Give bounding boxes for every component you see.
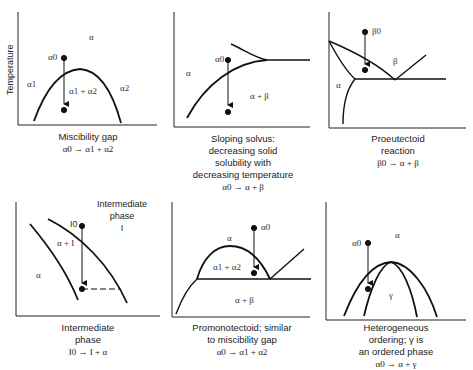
panel-6-reaction: α0 → α + γ bbox=[326, 358, 466, 370]
panel-3-label-alpha: α bbox=[336, 80, 341, 90]
panel-4-phase-title-line-1: Intermediate bbox=[97, 199, 147, 209]
panel-5-left-curve bbox=[176, 279, 197, 314]
panel-4-phase-title-line-3: I bbox=[121, 223, 124, 233]
panel-5-label-inside: α1 + α2 bbox=[213, 262, 241, 272]
panel-5-caption-line-1: Promonotectoid; similar bbox=[192, 322, 291, 333]
panel-6-caption-line-1: Heterogeneous bbox=[364, 322, 429, 333]
panel-4-left-curve bbox=[30, 224, 78, 300]
panel-6-label-gamma: γ bbox=[389, 290, 393, 300]
panel-4-label-inside: α + I bbox=[57, 238, 74, 248]
panel-2-caption-line-2: decreasing solid bbox=[209, 145, 278, 156]
panel-6-caption-line-3: an ordered phase bbox=[359, 346, 433, 357]
panel-5-caption: Promonotectoid; similar to miscibility g… bbox=[172, 322, 312, 358]
panel-1-label-alpha: α bbox=[89, 32, 94, 42]
panel-5-label-bottom: α + β bbox=[235, 295, 254, 305]
panel-1-miscibility-dome bbox=[34, 69, 121, 123]
panel-3-cooling-path bbox=[362, 29, 367, 72]
panel-1-reaction: α0 → α1 + α2 bbox=[20, 143, 156, 155]
panel-4-caption-line-2: phase bbox=[75, 334, 101, 345]
panel-3-label-beta0: β0 bbox=[372, 26, 381, 36]
panel-1-label-alpha2: α2 bbox=[120, 83, 129, 93]
panel-6-caption: Heterogeneous ordering; γ is an ordered … bbox=[326, 322, 466, 370]
panel-3-caption-line-2: reaction bbox=[381, 145, 415, 156]
panel-6-axes bbox=[326, 202, 466, 320]
panel-2-upper-curve bbox=[231, 44, 267, 60]
panel-1-label-inside: α1 + α2 bbox=[69, 86, 97, 96]
panel-5-reaction: α0 → α1 + α2 bbox=[172, 346, 312, 358]
panel-4-reaction: I0 → I + α bbox=[18, 346, 158, 358]
panel-2-reaction: α0 → α + β bbox=[175, 181, 311, 193]
panel-2-label-alpha0: α0 bbox=[215, 54, 224, 64]
panel-6-label-alpha: α bbox=[395, 230, 400, 240]
panel-5-label-alpha0: α0 bbox=[261, 222, 270, 232]
panel-1-label-alpha1: α1 bbox=[27, 79, 36, 89]
panel-4-caption: Intermediate phase I0 → I + α bbox=[18, 322, 158, 358]
panel-3-solvus bbox=[343, 79, 355, 124]
panel-5-right-line bbox=[270, 249, 304, 279]
panel-2-label-alpha: α bbox=[186, 68, 191, 78]
panel-3-liquidus bbox=[329, 41, 395, 80]
panel-4-phase-title: Intermediate phase I bbox=[88, 198, 156, 234]
panel-3-reaction: β0 → α + β bbox=[330, 157, 466, 169]
panel-4-label-i0: I0 bbox=[70, 219, 78, 229]
panel-4-caption-line-1: Intermediate bbox=[62, 322, 115, 333]
panel-1-label-alpha0: α0 bbox=[48, 52, 57, 62]
panel-2-axes bbox=[174, 12, 310, 127]
panel-3-axes bbox=[329, 12, 466, 128]
panel-2-cooling-path bbox=[225, 57, 230, 114]
panel-2-caption-line-1: Sloping solvus: bbox=[211, 133, 275, 144]
panel-3-caption-line-1: Proeutectoid bbox=[371, 133, 424, 144]
panel-6-caption-line-2: ordering; γ is bbox=[369, 334, 423, 345]
panel-4-phase-title-line-2: phase bbox=[110, 211, 135, 221]
panel-1-caption-title: Miscibility gap bbox=[58, 131, 117, 142]
panel-1-cooling-path bbox=[61, 55, 66, 112]
panel-2-caption-line-4: decreasing temperature bbox=[193, 169, 293, 180]
panel-3-right-line bbox=[395, 55, 426, 80]
panel-1-caption: Miscibility gap α0 → α1 + α2 bbox=[20, 131, 156, 155]
panel-3-label-beta: β bbox=[393, 56, 398, 66]
y-axis-label: Temperature bbox=[5, 44, 15, 95]
panel-4-label-alpha: α bbox=[36, 270, 41, 280]
panel-3-caption: Proeutectoid reaction β0 → α + β bbox=[330, 133, 466, 169]
panel-5-label-alpha: α bbox=[227, 233, 232, 243]
panel-5-cooling-path bbox=[251, 225, 256, 275]
panel-2-label-inside: α + β bbox=[250, 91, 269, 101]
panel-6-cooling-path bbox=[365, 240, 370, 291]
panel-6-label-alpha0: α0 bbox=[352, 238, 361, 248]
panel-5-caption-line-2: to miscibility gap bbox=[207, 334, 277, 345]
panel-2-caption-line-3: solubility with bbox=[215, 157, 271, 168]
panel-2-caption: Sloping solvus: decreasing solid solubil… bbox=[175, 133, 311, 193]
